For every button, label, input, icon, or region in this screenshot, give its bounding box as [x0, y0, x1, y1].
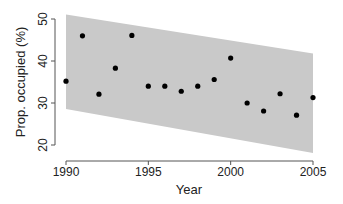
data-point — [310, 95, 315, 100]
data-point — [129, 33, 134, 38]
data-point — [146, 84, 151, 89]
x-tick-label: 1990 — [53, 165, 80, 179]
data-point — [96, 92, 101, 97]
prediction-band — [66, 14, 313, 153]
y-tick-label: 50 — [36, 12, 50, 26]
data-point — [212, 77, 217, 82]
x-tick-label: 1995 — [135, 165, 162, 179]
data-point — [162, 84, 167, 89]
data-point — [179, 89, 184, 94]
data-point — [245, 100, 250, 105]
data-point — [294, 113, 299, 118]
y-axis: 20304050 — [36, 12, 55, 152]
data-point — [277, 91, 282, 96]
x-tick-label: 2005 — [300, 165, 327, 179]
data-point — [80, 33, 85, 38]
data-point — [113, 66, 118, 71]
x-tick-label: 2000 — [217, 165, 244, 179]
x-axis-label: Year — [176, 182, 203, 197]
y-axis-label: Prop. occupied (%) — [13, 27, 28, 138]
y-tick-label: 30 — [36, 96, 50, 110]
scatter-chart: 20304050 1990199520002005 Year Prop. occ… — [0, 0, 343, 204]
data-point — [261, 108, 266, 113]
x-axis: 1990199520002005 — [53, 161, 327, 179]
y-tick-label: 20 — [36, 138, 50, 152]
data-point — [195, 84, 200, 89]
data-point — [228, 55, 233, 60]
data-point — [63, 79, 68, 84]
y-tick-label: 40 — [36, 54, 50, 68]
